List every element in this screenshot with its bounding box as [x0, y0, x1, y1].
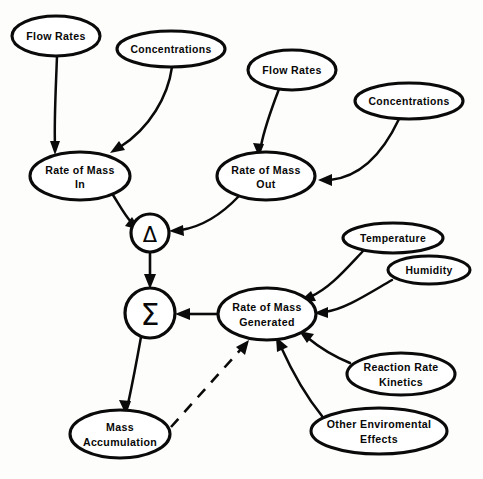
node-delta-operator[interactable]: Δ — [131, 214, 169, 252]
mass-balance-diagram: Flow Rates Concentrations Flow Rates Con… — [0, 0, 483, 479]
node-label-rate-of-mass-in-line2: In — [75, 178, 85, 190]
node-reaction-rate-kinetics[interactable]: Reaction Rate Kinetics — [347, 353, 455, 395]
delta-glyph: Δ — [143, 223, 158, 247]
node-concentrations-in[interactable]: Concentrations — [117, 31, 225, 67]
node-label-rate-of-mass-out-line2: Out — [256, 178, 275, 190]
node-label-concentrations-in: Concentrations — [130, 44, 211, 55]
edge-sigma-to-mass-accumulation — [119, 337, 141, 415]
node-label-rate-of-mass-out-line1: Rate of Mass — [231, 164, 301, 176]
node-label-rate-of-mass-in-line1: Rate of Mass — [45, 164, 115, 176]
edge-flow-rates-out-to-rate-of-mass-out — [253, 89, 279, 157]
node-flow-rates-out[interactable]: Flow Rates — [248, 50, 336, 90]
edge-reaction-rate-kinetics-to-rate-of-mass-generated — [299, 331, 350, 363]
node-label-mass-accumulation-line2: Accumulation — [83, 436, 157, 448]
edge-concentrations-out-to-rate-of-mass-out — [318, 119, 399, 186]
node-label-mass-accumulation-line1: Mass — [106, 421, 134, 433]
node-rate-of-mass-out[interactable]: Rate of Mass Out — [217, 152, 315, 200]
node-other-enviromental-effects[interactable]: Other Enviromental Effects — [311, 408, 447, 454]
edge-flow-rates-in-to-rate-of-mass-in — [50, 56, 60, 155]
edge-other-enviromental-effects-to-rate-of-mass-generated — [276, 337, 322, 416]
node-rate-of-mass-in[interactable]: Rate of Mass In — [30, 152, 130, 200]
node-mass-accumulation[interactable]: Mass Accumulation — [70, 410, 170, 458]
node-layer: Flow Rates Concentrations Flow Rates Con… — [12, 16, 470, 458]
node-label-other-enviromental-effects-line2: Effects — [360, 433, 398, 445]
node-temperature[interactable]: Temperature — [343, 223, 443, 253]
edge-humidity-to-rate-of-mass-generated — [314, 280, 392, 318]
node-sigma-operator[interactable]: Σ — [125, 288, 175, 338]
node-label-flow-rates-out: Flow Rates — [262, 64, 321, 76]
edge-concentrations-in-to-rate-of-mass-in — [110, 67, 172, 153]
sigma-glyph: Σ — [141, 297, 160, 332]
node-flow-rates-in[interactable]: Flow Rates — [12, 16, 100, 56]
node-label-humidity: Humidity — [405, 265, 452, 276]
node-label-rate-of-mass-generated-line2: Generated — [239, 316, 295, 328]
edge-rate-of-mass-out-to-delta — [169, 196, 239, 236]
node-label-other-enviromental-effects-line1: Other Enviromental — [327, 418, 432, 430]
node-label-concentrations-out: Concentrations — [368, 96, 449, 107]
node-label-reaction-rate-kinetics-line2: Kinetics — [379, 376, 423, 388]
edge-rate-of-mass-generated-to-sigma — [175, 308, 218, 320]
node-label-temperature: Temperature — [360, 233, 426, 244]
edge-temperature-to-rate-of-mass-generated — [299, 250, 364, 302]
node-humidity[interactable]: Humidity — [388, 256, 470, 284]
node-label-reaction-rate-kinetics-line1: Reaction Rate — [363, 361, 438, 373]
node-rate-of-mass-generated[interactable]: Rate of Mass Generated — [218, 288, 316, 340]
node-concentrations-out[interactable]: Concentrations — [355, 83, 463, 119]
node-label-rate-of-mass-generated-line1: Rate of Mass — [232, 301, 302, 313]
edge-delta-to-sigma — [144, 252, 156, 289]
diagram-canvas: Flow Rates Concentrations Flow Rates Con… — [0, 0, 483, 479]
node-label-flow-rates-in: Flow Rates — [26, 30, 85, 42]
edge-mass-accumulation-to-rate-of-mass-generated-dashed — [171, 340, 249, 427]
